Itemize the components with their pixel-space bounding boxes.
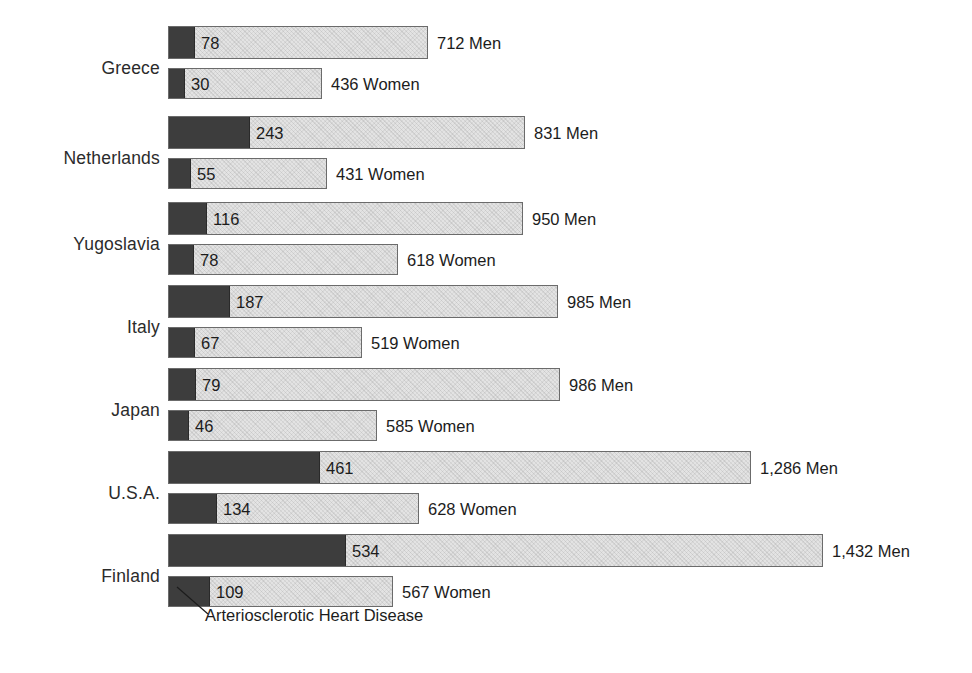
bar-finland-men: 534 bbox=[168, 534, 823, 567]
segment-heart-disease bbox=[169, 494, 217, 523]
bar-total-label: 585 Women bbox=[386, 417, 475, 436]
segment-heart-disease bbox=[169, 245, 194, 274]
annotation-text: Arteriosclerotic Heart Disease bbox=[205, 606, 423, 625]
bar-total-label: 986 Men bbox=[569, 376, 633, 395]
segment-value-label: 534 bbox=[352, 541, 380, 560]
bar-japan-women: 46 bbox=[168, 410, 377, 441]
segment-heart-disease bbox=[169, 203, 207, 234]
bar-total-label: 1,432 Men bbox=[832, 542, 910, 561]
bar-italy-women: 67 bbox=[168, 327, 362, 358]
segment-value-label: 187 bbox=[236, 292, 264, 311]
bar-total-label: 567 Women bbox=[402, 583, 491, 602]
segment-heart-disease bbox=[169, 577, 210, 606]
bar-total-label: 950 Men bbox=[532, 210, 596, 229]
category-label-greece: Greece bbox=[101, 58, 160, 79]
segment-value-label: 134 bbox=[223, 499, 251, 518]
bar-total-label: 831 Men bbox=[534, 124, 598, 143]
segment-heart-disease bbox=[169, 369, 196, 400]
segment-heart-disease bbox=[169, 328, 195, 357]
segment-value-label: 116 bbox=[213, 209, 239, 228]
segment-value-label: 461 bbox=[326, 458, 354, 477]
bar-total-label: 431 Women bbox=[336, 165, 425, 184]
segment-heart-disease bbox=[169, 117, 250, 148]
segment-heart-disease bbox=[169, 452, 320, 483]
bar-total-label: 985 Men bbox=[567, 293, 631, 312]
chart-canvas: Greece78712 Men30436 WomenNetherlands243… bbox=[0, 0, 972, 673]
bar-total-label: 628 Women bbox=[428, 500, 517, 519]
bar-yugoslavia-men: 116 bbox=[168, 202, 523, 235]
segment-value-label: 67 bbox=[201, 333, 219, 352]
segment-value-label: 243 bbox=[256, 123, 284, 142]
category-label-usa: U.S.A. bbox=[108, 483, 160, 504]
bar-yugoslavia-women: 78 bbox=[168, 244, 398, 275]
bar-finland-women: 109 bbox=[168, 576, 393, 607]
bar-total-label: 618 Women bbox=[407, 251, 496, 270]
segment-value-label: 46 bbox=[195, 416, 213, 435]
segment-heart-disease bbox=[169, 69, 185, 98]
segment-heart-disease bbox=[169, 411, 189, 440]
segment-heart-disease bbox=[169, 159, 191, 188]
segment-value-label: 78 bbox=[200, 250, 218, 269]
bar-netherlands-men: 243 bbox=[168, 116, 525, 149]
bar-total-label: 712 Men bbox=[437, 34, 501, 53]
bar-usa-men: 461 bbox=[168, 451, 751, 484]
bar-total-label: 436 Women bbox=[331, 75, 420, 94]
category-label-yugoslavia: Yugoslavia bbox=[73, 234, 160, 255]
bar-total-label: 519 Women bbox=[371, 334, 460, 353]
bar-total-label: 1,286 Men bbox=[760, 459, 838, 478]
bar-italy-men: 187 bbox=[168, 285, 558, 318]
segment-heart-disease bbox=[169, 27, 195, 58]
category-label-japan: Japan bbox=[111, 400, 160, 421]
category-label-netherlands: Netherlands bbox=[63, 148, 160, 169]
segment-value-label: 109 bbox=[216, 582, 244, 601]
bar-japan-men: 79 bbox=[168, 368, 560, 401]
category-label-finland: Finland bbox=[101, 566, 160, 587]
segment-heart-disease bbox=[169, 286, 230, 317]
bar-greece-women: 30 bbox=[168, 68, 322, 99]
category-label-italy: Italy bbox=[127, 317, 160, 338]
segment-heart-disease bbox=[169, 535, 346, 566]
segment-value-label: 78 bbox=[201, 33, 219, 52]
bar-greece-men: 78 bbox=[168, 26, 428, 59]
segment-value-label: 30 bbox=[191, 74, 209, 93]
segment-value-label: 79 bbox=[202, 375, 220, 394]
bar-usa-women: 134 bbox=[168, 493, 419, 524]
bar-netherlands-women: 55 bbox=[168, 158, 327, 189]
segment-value-label: 55 bbox=[197, 164, 215, 183]
